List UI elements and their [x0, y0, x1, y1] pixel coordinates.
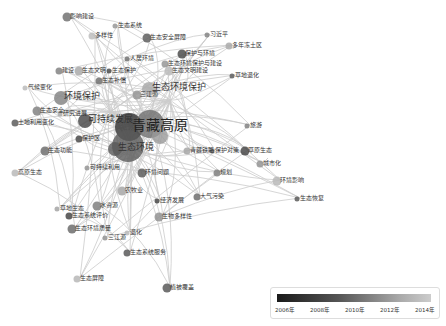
keyword-label: 多样性 — [95, 32, 113, 38]
keyword-label: 研究进展 — [63, 110, 87, 116]
keyword-node — [85, 166, 90, 171]
keyword-label: 城市化 — [263, 160, 281, 166]
keyword-label: 草地退化 — [235, 72, 259, 78]
keyword-label: 高原生态 — [18, 169, 42, 175]
keyword-label: 人居环境 — [130, 55, 154, 61]
keyword-label: 植被覆盖 — [170, 284, 194, 290]
keyword-label: 生态环境保护 — [152, 83, 206, 92]
keyword-node — [107, 69, 112, 74]
keyword-node — [113, 24, 118, 29]
keyword-label: 环境保护 — [64, 92, 100, 101]
keyword-node — [103, 236, 108, 241]
keyword-label: 环境影响 — [280, 177, 304, 183]
keyword-label: 生态功能 — [48, 147, 72, 153]
legend-tick: 2014年 — [415, 306, 435, 314]
keyword-label: 生态环境 — [118, 143, 154, 152]
keyword-label: 三江源 — [108, 234, 126, 240]
keyword-node — [245, 124, 250, 129]
keyword-label: 青藏铁路 — [190, 147, 214, 153]
timeline-legend: 2006年 2008年 2010年 2012年 2014年 — [270, 287, 440, 319]
keyword-label: 大气污染 — [200, 193, 224, 199]
keyword-label: 生态补偿 — [102, 77, 126, 83]
keyword-node — [55, 207, 60, 212]
keyword-node — [205, 33, 210, 38]
keyword-label: 生态系统服务 — [130, 249, 166, 255]
keyword-label: 生态文明建设 — [172, 67, 208, 73]
keyword-node — [23, 86, 28, 91]
keyword-label: 生态恢复 — [300, 195, 324, 201]
keyword-label: 生态安全 — [40, 107, 64, 113]
keyword-label: 生态屏障 — [80, 275, 104, 281]
keyword-label: 生态系统 — [118, 22, 142, 28]
keyword-label: 三江源 — [140, 91, 158, 97]
keyword-label: 保护对策 — [215, 147, 239, 153]
year-gradient-bar — [277, 294, 431, 302]
keyword-node — [125, 57, 130, 62]
keyword-label: 水资源 — [100, 202, 118, 208]
keyword-label: 可持续发展 — [88, 115, 133, 124]
legend-tick: 2012年 — [380, 306, 400, 314]
keyword-label: 习近平 — [210, 31, 228, 37]
keyword-label: 可持续利用 — [90, 164, 120, 170]
keyword-label: 保护与环境 — [185, 50, 215, 56]
keyword-label: 农牧业 — [125, 187, 143, 193]
network-graph — [0, 0, 446, 326]
keyword-label: 多年冻土区 — [232, 42, 262, 48]
keyword-label: 生态文明 — [82, 67, 106, 73]
legend-tick: 2006年 — [275, 306, 295, 314]
keyword-label: 影响建设 — [70, 13, 94, 19]
keyword-label: 草原生态 — [248, 147, 272, 153]
keyword-label: 规划 — [220, 169, 232, 175]
keyword-label: 旅游 — [250, 122, 262, 128]
keyword-label: 经济发展 — [160, 197, 184, 203]
keyword-label: 青藏高原 — [132, 118, 188, 132]
keyword-label: 生物多样性 — [162, 213, 192, 219]
keyword-label: 保护区 — [82, 135, 100, 141]
legend-tick: 2008年 — [310, 306, 330, 314]
keyword-label: 环境问题 — [145, 169, 169, 175]
legend-tick: 2010年 — [345, 306, 365, 314]
keyword-label: 退化 — [130, 229, 142, 235]
keyword-label: 生态环境质量 — [75, 225, 111, 231]
keyword-node — [155, 199, 160, 204]
keyword-label: 土地利用变化 — [18, 119, 54, 125]
keyword-label: 建设 — [62, 67, 74, 73]
keyword-node — [295, 197, 300, 202]
keyword-node — [230, 74, 235, 79]
keyword-label: 生态安全屏障 — [150, 34, 186, 40]
keyword-label: 气候变化 — [28, 84, 52, 90]
keyword-label: 生态保护 — [112, 67, 136, 73]
keyword-label: 生态系统评价 — [72, 212, 108, 218]
